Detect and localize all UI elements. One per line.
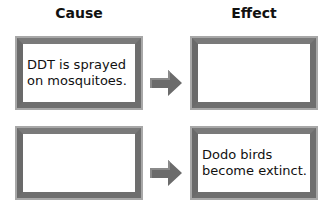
effect-box-2: Dodo birds become extinct. bbox=[192, 128, 316, 198]
cause-box-2 bbox=[17, 128, 141, 198]
cause-box-1: DDT is sprayed on mosquitoes. bbox=[17, 38, 141, 108]
arrow-right-icon bbox=[150, 160, 182, 186]
arrow-right-icon bbox=[150, 70, 182, 96]
effect-box-1 bbox=[192, 38, 316, 108]
cause-header: Cause bbox=[17, 5, 141, 21]
cause-text-1: DDT is sprayed on mosquitoes. bbox=[27, 57, 127, 89]
effect-header: Effect bbox=[192, 5, 316, 21]
effect-text-2: Dodo birds become extinct. bbox=[202, 147, 307, 179]
